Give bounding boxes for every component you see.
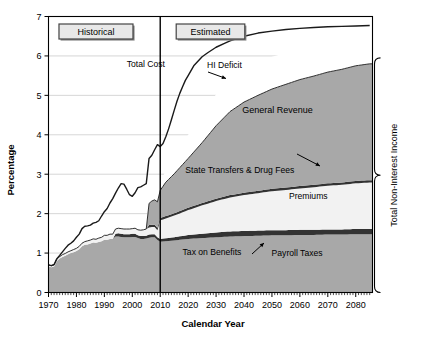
hi-income-cost-area-chart: 1970198019902000201020202030204020502060… xyxy=(0,0,432,345)
y-tick-label: 0 xyxy=(36,288,41,298)
y-tick-label: 6 xyxy=(36,51,41,61)
annotation-premiums: Premiums xyxy=(289,191,328,201)
y-tick-label: 5 xyxy=(36,91,41,101)
band-payroll-taxes xyxy=(49,234,373,292)
annotation-hi-deficit: HI Deficit xyxy=(207,60,242,70)
y-tick-label: 4 xyxy=(36,130,41,140)
x-tick-label: 2060 xyxy=(290,300,310,310)
chart-root: 1970198019902000201020202030204020502060… xyxy=(0,0,432,345)
y-tick-label: 2 xyxy=(36,209,41,219)
x-tick-label: 2070 xyxy=(318,300,338,310)
x-tick-label: 1990 xyxy=(94,300,114,310)
x-tick-label: 2080 xyxy=(346,300,366,310)
x-tick-label: 1970 xyxy=(38,300,58,310)
x-axis-title: Calendar Year xyxy=(181,318,245,329)
annotation-payroll-taxes: Payroll Taxes xyxy=(272,248,323,258)
x-tick-label: 2010 xyxy=(150,300,170,310)
annotation-tax-on-benefits: Tax on Benefits xyxy=(183,247,242,257)
x-tick-label: 2000 xyxy=(122,300,142,310)
annotation-total-cost: Total Cost xyxy=(127,59,166,69)
period-box-estimated: Estimated xyxy=(176,24,246,41)
y-tick-label: 3 xyxy=(36,170,41,180)
annotation-state-transfers-drug-fees: State Transfers & Drug Fees xyxy=(185,165,294,175)
y-tick-label: 7 xyxy=(36,12,41,22)
period-box-label: Historical xyxy=(77,27,114,37)
y-tick-label: 1 xyxy=(36,248,41,258)
x-tick-label: 2030 xyxy=(206,300,226,310)
x-tick-label: 1980 xyxy=(66,300,86,310)
period-box-historical: Historical xyxy=(59,24,135,41)
x-tick-label: 2020 xyxy=(178,300,198,310)
period-box-label: Estimated xyxy=(190,27,230,37)
annotation-general-revenue: General Revenue xyxy=(242,105,313,115)
bracket-label: Total Non-Interest Income xyxy=(389,124,399,227)
x-tick-label: 2050 xyxy=(262,300,282,310)
y-axis-title: Percentage xyxy=(5,144,16,195)
x-tick-label: 2040 xyxy=(234,300,254,310)
